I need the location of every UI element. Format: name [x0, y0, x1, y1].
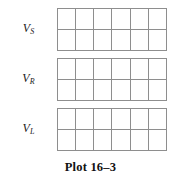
grid-cell[interactable] [149, 130, 167, 151]
grid-cell[interactable] [131, 30, 149, 51]
grid-cell[interactable] [94, 80, 112, 101]
grid-cell[interactable] [149, 30, 167, 51]
grid-cell[interactable] [76, 59, 94, 80]
grid-cell[interactable] [131, 130, 149, 151]
grid-cell[interactable] [112, 30, 130, 51]
grid-cell[interactable] [58, 9, 76, 30]
grid-cell[interactable] [131, 9, 149, 30]
grid-cell[interactable] [76, 80, 94, 101]
row-label-vs: VS [0, 22, 57, 36]
grid-cell[interactable] [131, 109, 149, 130]
grid-cell[interactable] [112, 130, 130, 151]
grid-cell[interactable] [94, 130, 112, 151]
grid-cell[interactable] [76, 130, 94, 151]
row-label-vl-subscript: L [30, 127, 34, 136]
grid-cell[interactable] [58, 30, 76, 51]
plot-figure: VS VR [0, 0, 181, 184]
grid-cell[interactable] [94, 30, 112, 51]
grid-cell[interactable] [149, 109, 167, 130]
grid-vl[interactable] [57, 108, 167, 151]
grid-cell[interactable] [58, 130, 76, 151]
grid-cell[interactable] [112, 59, 130, 80]
plot-row-vl: VL [0, 106, 181, 152]
row-label-vl-base: V [23, 121, 31, 135]
grid-cell[interactable] [76, 30, 94, 51]
grid-cell[interactable] [58, 59, 76, 80]
grid-cell[interactable] [58, 80, 76, 101]
grid-cell[interactable] [149, 80, 167, 101]
grid-cell[interactable] [112, 9, 130, 30]
grid-cell[interactable] [76, 9, 94, 30]
grid-vr[interactable] [57, 58, 167, 101]
row-label-vr-subscript: R [30, 77, 35, 86]
grid-cell[interactable] [149, 59, 167, 80]
grid-cell[interactable] [131, 59, 149, 80]
grid-vs[interactable] [57, 8, 167, 51]
grid-cell[interactable] [112, 80, 130, 101]
grid-cell[interactable] [131, 80, 149, 101]
plot-row-vr: VR [0, 56, 181, 102]
grid-cell[interactable] [58, 109, 76, 130]
row-label-vr-base: V [22, 71, 30, 85]
figure-caption: Plot 16–3 [0, 160, 181, 175]
row-label-vs-subscript: S [30, 27, 34, 36]
grid-cell[interactable] [94, 109, 112, 130]
row-label-vr: VR [0, 72, 57, 86]
grid-cell[interactable] [76, 109, 94, 130]
grid-cell[interactable] [149, 9, 167, 30]
grid-cell[interactable] [112, 109, 130, 130]
grid-cell[interactable] [94, 9, 112, 30]
row-label-vl: VL [0, 122, 57, 136]
plot-row-vs: VS [0, 6, 181, 52]
grid-cell[interactable] [94, 59, 112, 80]
